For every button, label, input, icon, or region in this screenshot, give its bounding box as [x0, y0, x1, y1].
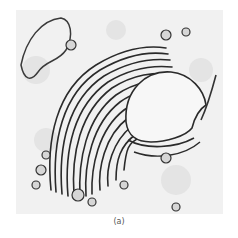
figure-caption: (a) [0, 217, 238, 226]
micrograph-image [16, 10, 223, 214]
golgi-micrograph-graphic [16, 10, 223, 214]
